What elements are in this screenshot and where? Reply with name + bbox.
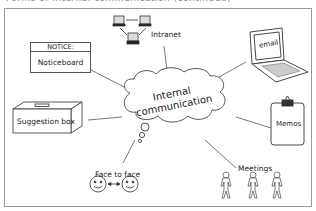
noticeboard-label: Noticeboard xyxy=(31,52,90,73)
notice-header: NOTICE: xyxy=(31,43,90,52)
meetings-label: Meetings xyxy=(238,164,272,173)
connector-email xyxy=(219,62,246,77)
stick-figures-icon xyxy=(221,172,282,198)
memos-label: Memos xyxy=(276,120,301,128)
noticeboard-node: NOTICE: Noticeboard xyxy=(30,42,91,73)
laptop-icon xyxy=(250,28,308,82)
connector-meetings xyxy=(205,140,236,168)
network-computers-icon xyxy=(113,16,151,44)
connector-face xyxy=(123,140,135,163)
connector-suggestion xyxy=(88,117,122,120)
intranet-label: Intranet xyxy=(151,30,181,39)
suggestion-box-label: Suggestion box xyxy=(17,117,75,126)
face-to-face-label: Face to face xyxy=(95,170,140,179)
connector-memos xyxy=(236,117,271,128)
